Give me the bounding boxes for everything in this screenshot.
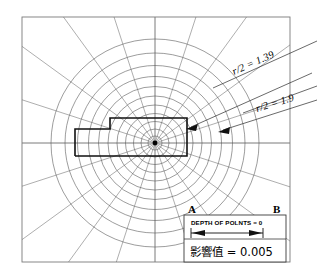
- depth-of-points-label: DEPTH OF POLNTS = 0: [191, 219, 263, 226]
- leader-line-outer-upper: [213, 41, 317, 88]
- center-point: [153, 141, 158, 146]
- radial-line-6: [116, 143, 155, 262]
- point-b-label: B: [273, 203, 281, 215]
- figure-root: r/2 = 1.39 r/2 = 1.9 A B DEPTH OF POLNTS…: [0, 0, 317, 278]
- radial-line-17: [155, 17, 247, 143]
- influence-chart-svg: r/2 = 1.39 r/2 = 1.9 A B DEPTH OF POLNTS…: [0, 0, 317, 278]
- influence-value-label: 影響值 = 0.005: [190, 245, 273, 259]
- point-a-label: A: [188, 203, 196, 215]
- footprint-polygon: [75, 118, 187, 156]
- radial-line-8: [22, 143, 155, 240]
